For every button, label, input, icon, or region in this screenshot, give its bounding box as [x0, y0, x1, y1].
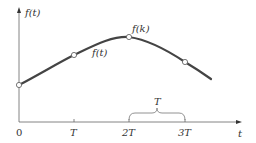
tick-label-T: T — [70, 127, 78, 138]
x-axis-label: t — [238, 128, 243, 139]
x-axis — [19, 120, 242, 124]
sample-point — [71, 52, 76, 57]
sampled-function-diagram: f(t) f(t) f(k) T 0 T 2T 3T t — [0, 0, 256, 143]
tick-label-2T: 2T — [121, 127, 136, 138]
y-axis-label: f(t) — [24, 7, 41, 18]
sample-point — [16, 82, 21, 87]
interval-brace — [129, 108, 185, 120]
sample-point — [126, 34, 131, 39]
interval-label: T — [154, 96, 162, 107]
y-axis-arrow-icon — [17, 7, 21, 13]
y-axis — [17, 7, 21, 122]
tick-label-0: 0 — [16, 127, 22, 138]
peak-label: f(k) — [131, 23, 150, 34]
curve-label: f(t) — [91, 47, 108, 58]
x-ticks — [74, 119, 185, 122]
sample-point — [182, 59, 187, 64]
tick-label-3T: 3T — [178, 127, 192, 138]
diagram-canvas: f(t) f(t) f(k) T 0 T 2T 3T t — [0, 0, 256, 143]
x-axis-arrow-icon — [236, 120, 242, 124]
